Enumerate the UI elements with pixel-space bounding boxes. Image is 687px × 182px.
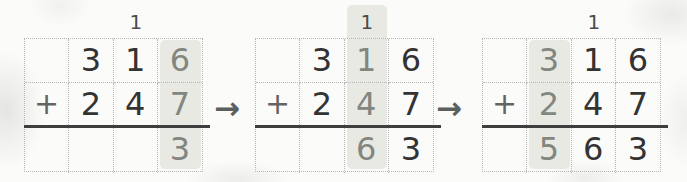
grid-cell: 3	[69, 39, 113, 83]
grid-cell: 7	[616, 83, 660, 127]
grid-cell: 7	[158, 83, 202, 127]
grid-cell	[25, 127, 69, 173]
grid-cell	[69, 127, 113, 173]
grid-cell	[483, 39, 527, 83]
grid-cell: 3	[616, 127, 660, 173]
grid-cell	[25, 39, 69, 83]
sum-rule-line	[24, 125, 210, 128]
grid-cells: 3 1 6 + 2 4 7 5 6 3	[482, 38, 661, 172]
sum-rule-line	[482, 125, 668, 128]
grid-cell: 2	[69, 83, 113, 127]
carry-row: 1	[255, 0, 434, 38]
addition-step-hundreds: 1 3 1 6 + 2 4 7 5 6 3	[482, 0, 661, 182]
sum-rule-line	[255, 125, 441, 128]
addition-grid: 3 1 6 + 2 4 7 6 3	[255, 38, 434, 172]
grid-cell: 4	[572, 83, 616, 127]
grid-cell: 6	[389, 39, 433, 83]
addition-step-tens: 1 3 1 6 + 2 4 7 6 3	[255, 0, 434, 182]
grid-cell: 2	[527, 83, 571, 127]
carry-one-mark: 1	[588, 12, 601, 38]
grid-cells: 3 1 6 + 2 4 7 3	[24, 38, 203, 172]
grid-cell	[483, 127, 527, 173]
grid-cell: 4	[345, 83, 389, 127]
arrow-right-icon: →	[431, 90, 467, 126]
addition-grid: 3 1 6 + 2 4 7 3	[24, 38, 203, 172]
grid-cell: 1	[345, 39, 389, 83]
plus-sign: +	[25, 83, 69, 127]
grid-cell: 6	[616, 39, 660, 83]
grid-cell: 3	[527, 39, 571, 83]
grid-cell	[256, 39, 300, 83]
grid-cell: 3	[389, 127, 433, 173]
grid-cell	[300, 127, 344, 173]
grid-cell	[256, 127, 300, 173]
addition-step-ones: 1 3 1 6 + 2 4 7 3	[24, 0, 203, 182]
grid-cell: 3	[300, 39, 344, 83]
arrow-right-icon: →	[209, 90, 245, 126]
grid-cell: 2	[300, 83, 344, 127]
grid-cell: 1	[114, 39, 158, 83]
carry-row: 1	[482, 0, 661, 38]
carry-row: 1	[24, 0, 203, 38]
plus-sign: +	[483, 83, 527, 127]
grid-cell: 6	[158, 39, 202, 83]
grid-cell: 6	[572, 127, 616, 173]
grid-cell: 4	[114, 83, 158, 127]
grid-cell	[114, 127, 158, 173]
grid-cell: 5	[527, 127, 571, 173]
grid-cells: 3 1 6 + 2 4 7 6 3	[255, 38, 434, 172]
grid-cell: 6	[345, 127, 389, 173]
addition-grid: 3 1 6 + 2 4 7 5 6 3	[482, 38, 661, 172]
grid-cell: 3	[158, 127, 202, 173]
carry-one-mark: 1	[361, 12, 374, 38]
grid-cell: 1	[572, 39, 616, 83]
carry-one-mark: 1	[130, 12, 143, 38]
grid-cell: 7	[389, 83, 433, 127]
plus-sign: +	[256, 83, 300, 127]
